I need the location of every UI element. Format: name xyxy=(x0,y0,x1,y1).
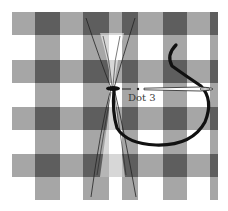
needle-icon xyxy=(144,87,213,91)
step-label: Dot 3 xyxy=(128,92,156,103)
gingham-illustration: Dot 3 xyxy=(0,0,228,211)
